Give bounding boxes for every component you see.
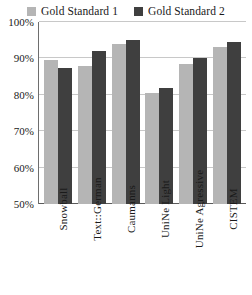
y-tick-label: 80% — [14, 89, 34, 100]
bar-series-2 — [227, 42, 241, 204]
x-tick-label: UniNe Light — [159, 180, 171, 238]
x-label-slot: CISTEM — [213, 205, 241, 295]
x-label-slot: Snowball — [43, 205, 71, 295]
bar-series-1 — [44, 60, 58, 204]
plot-area — [38, 22, 246, 204]
bar-series-1 — [145, 93, 159, 204]
chart-legend: Gold Standard 1 Gold Standard 2 — [0, 0, 252, 22]
legend-label-gold-standard-2: Gold Standard 2 — [148, 5, 225, 17]
bar-series-1 — [179, 64, 193, 204]
x-label-slot: UniNe Light — [145, 205, 173, 295]
x-tick-label: Text::German — [91, 177, 103, 240]
y-tick-label: 50% — [14, 199, 34, 210]
plot-wrapper: 50%60%70%80%90%100% SnowballText::German… — [0, 22, 252, 295]
bar-group — [112, 22, 140, 204]
bar-group — [44, 22, 72, 204]
x-label-slot: Caumanns — [111, 205, 139, 295]
bar-series-1 — [112, 44, 126, 204]
x-tick-label: UniNe Agressive — [193, 170, 205, 248]
bar-series-2 — [126, 40, 140, 204]
y-tick-label: 70% — [14, 126, 34, 137]
bar-series-1 — [213, 47, 227, 204]
x-label-slot: UniNe Agressive — [179, 205, 207, 295]
legend-swatch-gold-standard-2 — [134, 7, 143, 16]
x-tick-label: Snowball — [57, 187, 69, 230]
x-axis: SnowballText::GermanCaumannsUniNe LightU… — [38, 205, 246, 295]
legend-swatch-gold-standard-1 — [27, 7, 36, 16]
x-tick-label: Caumanns — [125, 185, 137, 233]
bar-groups — [39, 22, 246, 204]
bar-chart: Gold Standard 1 Gold Standard 2 50%60%70… — [0, 0, 252, 295]
x-label-slot: Text::German — [77, 205, 105, 295]
y-axis: 50%60%70%80%90%100% — [0, 22, 38, 204]
legend-label-gold-standard-1: Gold Standard 1 — [41, 5, 118, 17]
bar-group — [213, 22, 241, 204]
y-tick-label: 90% — [14, 53, 34, 64]
x-tick-label: CISTEM — [227, 188, 239, 230]
bar-series-1 — [78, 66, 92, 204]
legend-item-gold-standard-2: Gold Standard 2 — [134, 5, 225, 17]
legend-item-gold-standard-1: Gold Standard 1 — [27, 5, 118, 17]
y-tick-label: 100% — [8, 17, 34, 28]
y-tick-label: 60% — [14, 162, 34, 173]
bar-group — [145, 22, 173, 204]
bar-series-2 — [58, 68, 72, 205]
